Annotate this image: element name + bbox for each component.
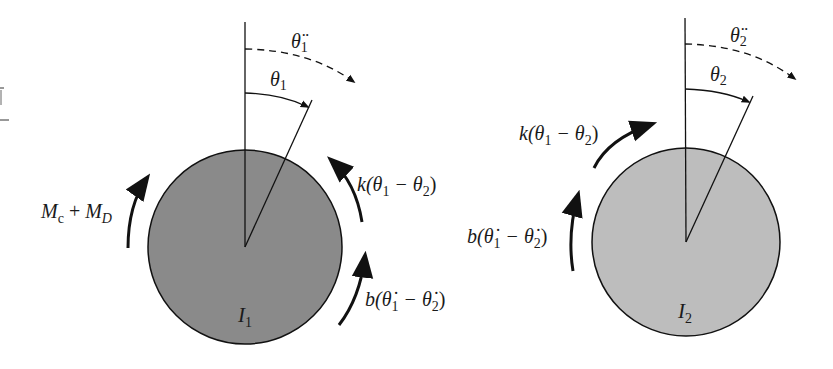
disk-1-damper-torque-arrow-icon xyxy=(339,256,365,325)
disk-2-accel-label: θ̈2 xyxy=(730,24,748,49)
disk-2-damper-torque-label: b(θ̇1 − θ̇2) xyxy=(467,225,547,251)
disk-1-group: θ̈1 θ1 I1 Mc + MD k(θ1 − θ2) b(θ̇1 − θ̇2… xyxy=(40,22,445,344)
disk-1-damper-torque-label: b(θ̇1 − θ̇2) xyxy=(365,288,445,314)
applied-torque-arrow-icon xyxy=(128,178,147,248)
free-body-diagram: θ̈1 θ1 I1 Mc + MD k(θ1 − θ2) b(θ̇1 − θ̇2… xyxy=(0,0,833,369)
disk-2-group: θ̈2 θ2 I2 k(θ1 − θ2) b(θ̇1 − θ̇2) xyxy=(467,18,795,336)
disk-2-angle-arrow-icon xyxy=(685,89,749,102)
disk-1-accel-label: θ̈1 xyxy=(291,30,309,55)
disk-1-spring-torque-label: k(θ1 − θ2) xyxy=(357,173,436,199)
disk-1-angle-arrow-icon xyxy=(245,93,308,107)
edge-artifact xyxy=(0,88,9,120)
disk-2-accel-arrow-icon xyxy=(685,44,795,79)
disk-1-angle-label: θ1 xyxy=(270,68,287,93)
disk-1-accel-arrow-icon xyxy=(245,49,354,82)
disk-2-damper-torque-arrow-icon xyxy=(571,195,578,271)
disk-2-angle-label: θ2 xyxy=(710,63,727,88)
disk-2-spring-torque-label: k(θ1 − θ2) xyxy=(519,122,598,148)
applied-torque-label: Mc + MD xyxy=(40,200,112,226)
